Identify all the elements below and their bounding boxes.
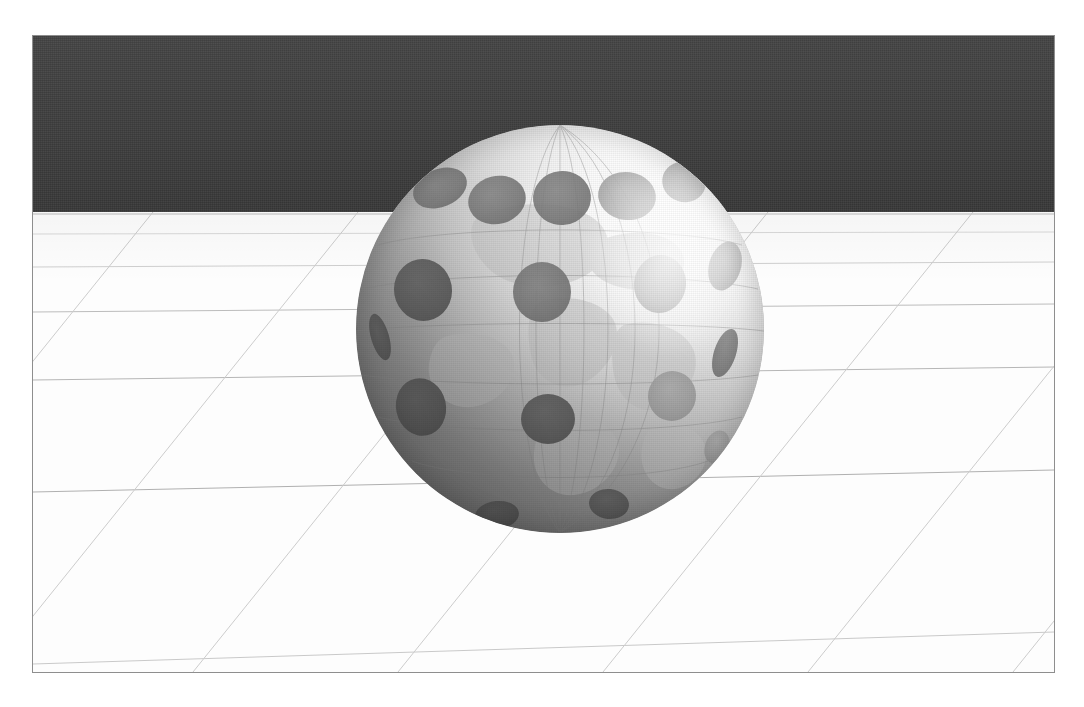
rendered-scene [33, 36, 1054, 672]
photo-frame [32, 35, 1055, 673]
globe-rim-shading [356, 125, 764, 533]
page-root [0, 0, 1084, 707]
globe-sphere [356, 125, 764, 533]
